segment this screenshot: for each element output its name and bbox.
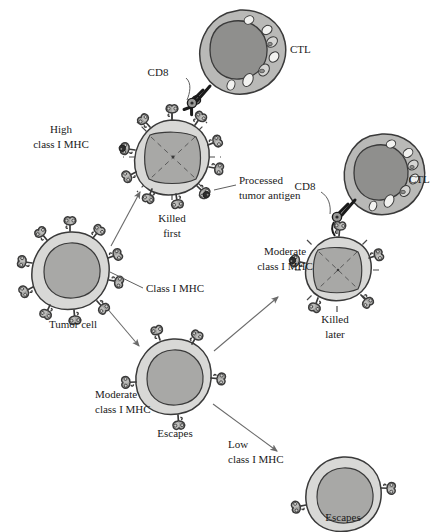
processed-antigen-label-line1: Processed	[239, 174, 283, 186]
killed-later-label-line2: later	[325, 328, 345, 340]
tumor-nucleus	[44, 243, 100, 298]
killed-first-label-line1: Killed	[158, 212, 186, 224]
moderate-right-label-line2: class I MHC	[257, 260, 313, 272]
high-class-i-mhc-label-line1: High	[50, 123, 73, 135]
killed-later-label-line1: Killed	[321, 313, 349, 325]
processed-antigen-label-line2: tumor antigen	[239, 189, 301, 201]
tumor-nucleus	[147, 350, 203, 405]
low-class-i-mhc-label-line2: class I MHC	[228, 453, 284, 465]
tumor-cell-label: Tumor cell	[49, 318, 97, 330]
ctl-top-label: CTL	[290, 43, 311, 55]
killed-first-label-line2: first	[163, 227, 181, 239]
cd8-top-label: CD8	[148, 66, 169, 78]
escapes-bottom-label: Escapes	[325, 511, 360, 523]
class-i-mhc-label: Class I MHC	[146, 282, 204, 294]
ctl-right-label: CTL	[409, 173, 430, 185]
cd8-right-label: CD8	[295, 180, 316, 192]
high-class-i-mhc-label-line2: class I MHC	[33, 138, 89, 150]
diagram-canvas: CD8 CTL	[0, 0, 447, 532]
moderate-middle-label-line2: class I MHC	[95, 403, 151, 415]
moderate-right-label-line1: Moderate	[264, 245, 306, 257]
low-class-i-mhc-label-line1: Low	[228, 438, 248, 450]
tumor-immune-escape-diagram: CD8 CTL	[0, 0, 447, 532]
moderate-middle-label-line1: Moderate	[95, 388, 137, 400]
escapes-middle-label: Escapes	[157, 427, 192, 439]
